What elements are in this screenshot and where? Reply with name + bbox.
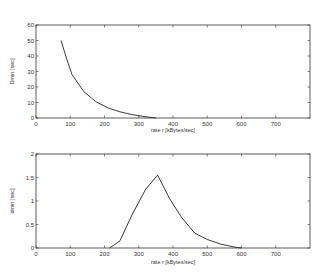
y-axis-label: dmin [sec] <box>9 188 15 214</box>
y-tick-label: 60 <box>27 22 34 28</box>
x-tick-label: 500 <box>202 121 213 127</box>
x-axis-label: rate r [kBytes/sec] <box>151 259 195 265</box>
y-tick-label: 0.5 <box>26 222 35 228</box>
axes-frame <box>36 25 310 118</box>
x-tick-label: 700 <box>271 121 282 127</box>
x-tick-label: 0 <box>34 251 38 257</box>
x-tick-label: 500 <box>202 251 213 257</box>
x-tick-label: 300 <box>134 121 145 127</box>
x-tick-label: 100 <box>65 121 76 127</box>
series-line <box>61 41 156 119</box>
x-tick-label: 600 <box>236 121 247 127</box>
axes-frame <box>36 154 310 248</box>
y-tick-label: 20 <box>27 84 34 90</box>
x-tick-label: 200 <box>99 251 110 257</box>
plot-dmin-upper: 01002003004005006007000102030405060rate … <box>9 22 310 133</box>
x-tick-label: 0 <box>34 121 38 127</box>
x-tick-label: 400 <box>168 251 179 257</box>
y-tick-label: 2 <box>31 151 35 157</box>
y-tick-label: 1.5 <box>26 175 35 181</box>
y-tick-label: 40 <box>27 53 34 59</box>
x-axis-label: rate r [kBytes/sec] <box>151 127 195 133</box>
y-tick-label: 30 <box>27 69 34 75</box>
series-line <box>110 175 242 248</box>
y-tick-label: 1 <box>31 198 35 204</box>
y-axis-label: Dmin [sec] <box>9 58 15 84</box>
x-tick-label: 700 <box>271 251 282 257</box>
y-tick-label: 10 <box>27 100 34 106</box>
x-tick-label: 200 <box>99 121 110 127</box>
x-tick-label: 600 <box>236 251 247 257</box>
plot-dmin-lower: 010020030040050060070000.511.52rate r [k… <box>9 151 310 265</box>
y-tick-label: 50 <box>27 38 34 44</box>
x-tick-label: 300 <box>134 251 145 257</box>
x-tick-label: 100 <box>65 251 76 257</box>
figure: 01002003004005006007000102030405060rate … <box>0 0 327 278</box>
